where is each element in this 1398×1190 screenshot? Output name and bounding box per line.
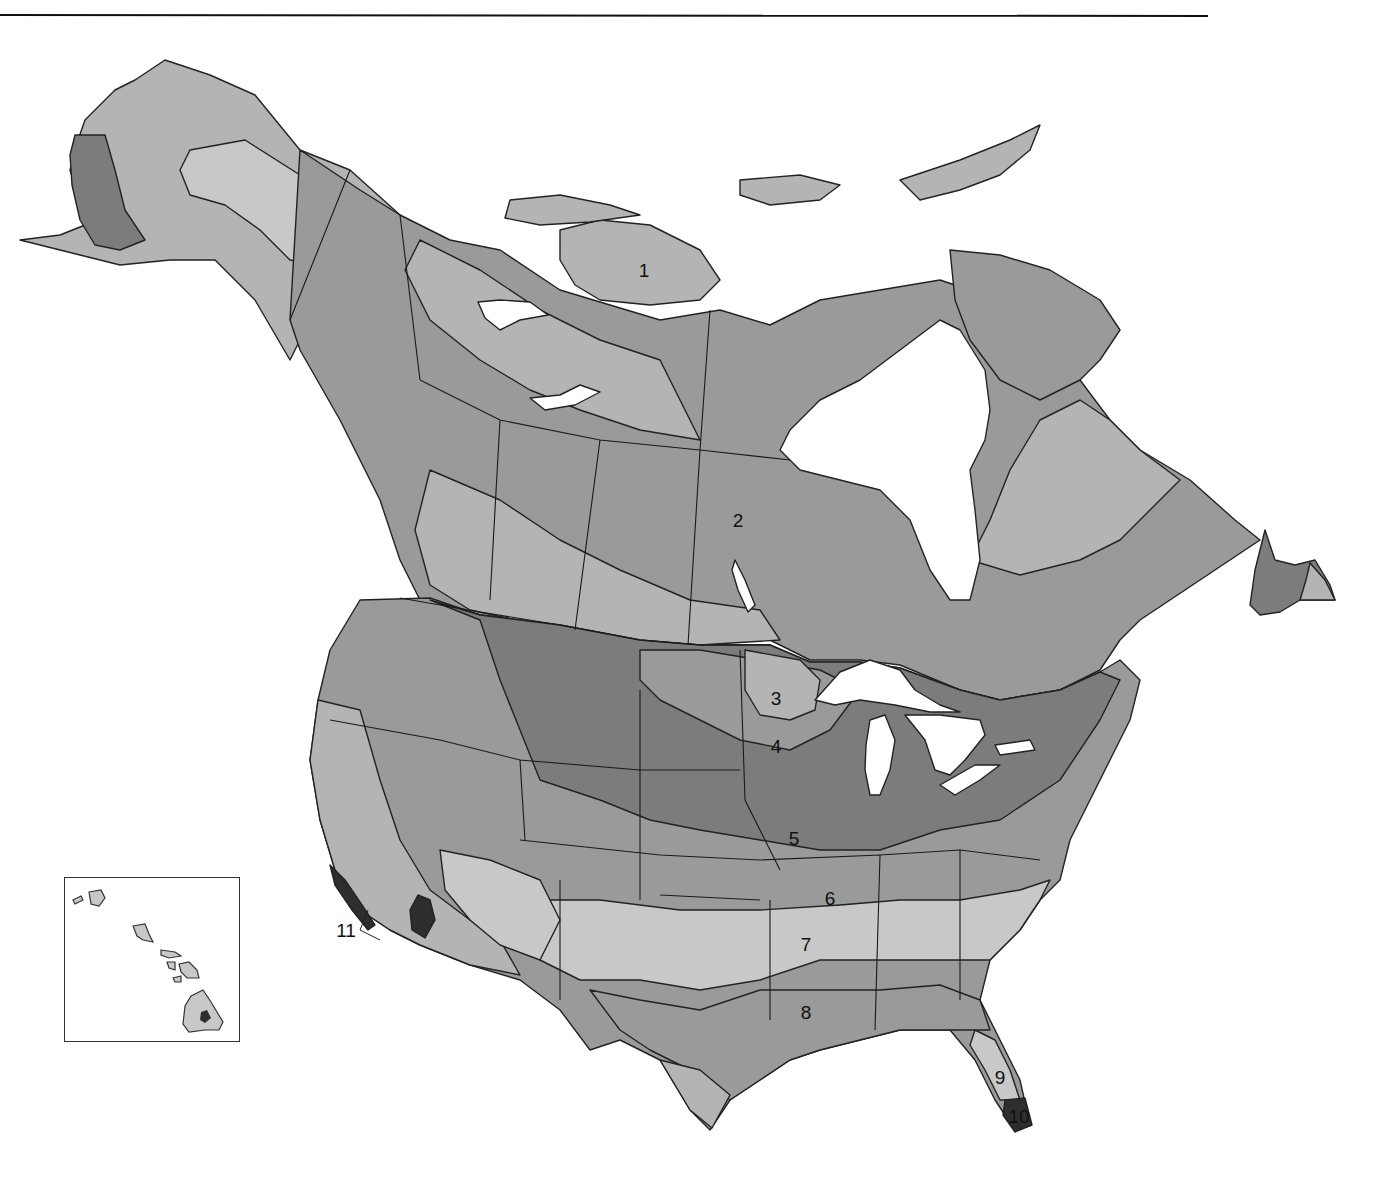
- zone-label-6: 6: [825, 888, 836, 909]
- zone-label-10: 10: [1008, 1106, 1029, 1127]
- island-molokai: [161, 950, 181, 958]
- island-lanai: [167, 962, 175, 970]
- zone-label-3: 3: [771, 688, 782, 709]
- minnesota-light-zone: [745, 650, 820, 720]
- hawaii-inset: [64, 877, 240, 1042]
- zone-label-8: 8: [801, 1002, 812, 1023]
- zone-label-9: 9: [995, 1067, 1006, 1088]
- us-gulf-mid-zone: [590, 985, 990, 1100]
- arctic-island-north: [505, 195, 640, 225]
- newfoundland: [1250, 530, 1335, 615]
- zone-label-7: 7: [801, 934, 812, 955]
- zone-label-1: 1: [639, 260, 650, 281]
- island-hawaii: [183, 990, 223, 1032]
- zone-label-5: 5: [789, 828, 800, 849]
- arctic-island-small: [740, 175, 840, 205]
- island-niihau: [73, 896, 83, 904]
- arctic-island-ellesmere: [900, 125, 1040, 200]
- island-oahu: [133, 924, 153, 942]
- zone-label-11: 11: [336, 920, 356, 941]
- zone-label-4: 4: [771, 736, 782, 757]
- island-kauai: [89, 890, 105, 906]
- island-kahoolawe: [173, 976, 181, 982]
- island-maui: [179, 962, 199, 978]
- hawaii-islands: [65, 878, 241, 1043]
- zone-label-2: 2: [733, 510, 744, 531]
